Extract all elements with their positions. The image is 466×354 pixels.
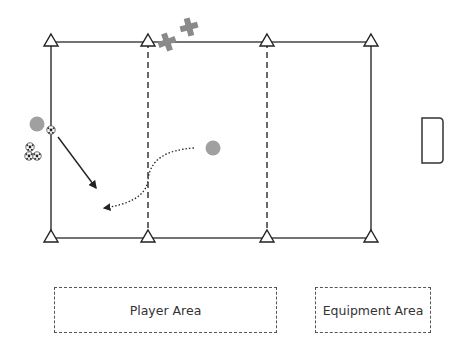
defender-cross-icon bbox=[155, 30, 178, 53]
pass-arrow bbox=[58, 137, 96, 188]
run-path-arrow bbox=[104, 148, 194, 208]
cone-icon bbox=[364, 230, 378, 242]
soccer-ball-icon bbox=[33, 152, 41, 160]
cone-icon bbox=[44, 34, 58, 46]
cone-icon bbox=[141, 230, 155, 242]
cone-icon bbox=[260, 230, 274, 242]
equipment-area-label: Equipment Area bbox=[323, 303, 424, 318]
player-left-icon bbox=[30, 117, 45, 132]
player-center-icon bbox=[206, 141, 221, 156]
cones bbox=[44, 34, 378, 242]
player-area-box: Player Area bbox=[54, 287, 277, 333]
defender-cross-icon bbox=[178, 16, 200, 38]
soccer-ball-icon bbox=[25, 152, 33, 160]
player-area-label: Player Area bbox=[130, 303, 202, 318]
cone-icon bbox=[364, 34, 378, 46]
soccer-ball-icon bbox=[26, 143, 34, 151]
cone-icon bbox=[260, 34, 274, 46]
soccer-ball-icon bbox=[47, 126, 55, 134]
cone-icon bbox=[44, 230, 58, 242]
equipment-area-box: Equipment Area bbox=[315, 287, 431, 333]
field bbox=[51, 42, 371, 238]
goal-icon bbox=[422, 118, 443, 163]
cone-icon bbox=[141, 34, 155, 46]
